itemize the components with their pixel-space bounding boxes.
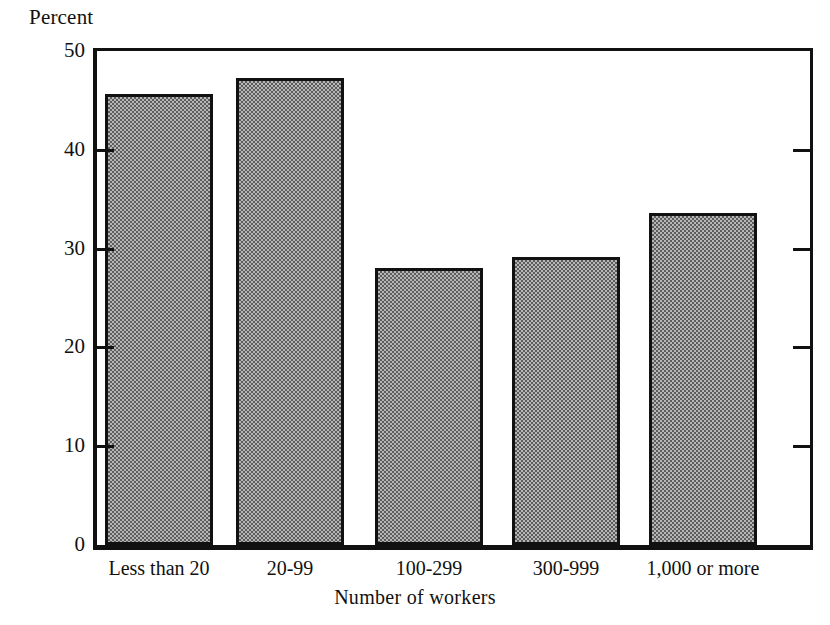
y-axis-tick-mark-right	[793, 248, 810, 251]
y-axis-tick-mark-right	[793, 445, 810, 448]
y-axis-tick-label: 50	[27, 40, 85, 61]
y-axis-tick-label: 0	[27, 534, 85, 555]
y-axis-tick-label: 40	[27, 139, 85, 160]
bar	[649, 213, 757, 545]
y-axis-tick-mark-right	[793, 346, 810, 349]
bar	[105, 94, 213, 545]
y-axis-tick-mark-left	[97, 248, 114, 251]
x-axis-tick-labels: Less than 2020-99100-299300-9991,000 or …	[93, 556, 813, 586]
x-axis-title: Number of workers	[0, 586, 830, 609]
bar-chart: Percent 01020304050 Less than 2020-99100…	[0, 0, 830, 625]
bar	[512, 257, 620, 545]
y-axis-tick-mark-right	[793, 149, 810, 152]
y-axis-tick-label: 20	[27, 336, 85, 357]
y-axis-tick-mark-left	[97, 445, 114, 448]
plot-area	[93, 48, 813, 550]
y-axis-tick-mark-left	[97, 149, 114, 152]
bars-layer	[97, 51, 810, 545]
bar	[236, 78, 344, 545]
y-axis-tick-label: 10	[27, 435, 85, 456]
y-axis-tick-labels: 01020304050	[0, 0, 85, 625]
bar	[375, 268, 483, 545]
y-axis-tick-label: 30	[27, 238, 85, 259]
x-axis-tick-label: 1,000 or more	[593, 556, 813, 580]
y-axis-tick-mark-left	[97, 346, 114, 349]
